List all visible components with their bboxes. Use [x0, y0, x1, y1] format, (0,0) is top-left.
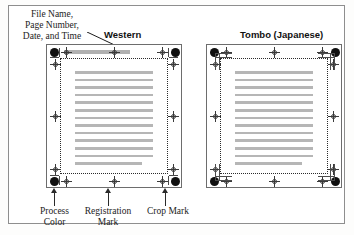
- text-line: [235, 162, 302, 165]
- text-line: [235, 86, 313, 89]
- callout-file-info-line-2: Page Number,: [6, 20, 98, 31]
- leader-arrowhead-crop-mark: [162, 188, 168, 193]
- panel-tombo: [206, 44, 342, 188]
- text-line: [235, 132, 313, 135]
- text-line: [75, 124, 153, 127]
- text-line: [235, 147, 313, 150]
- crop-mark: [168, 175, 182, 189]
- crop-mark-tombo: [315, 53, 335, 73]
- process-color-dot: [50, 177, 59, 186]
- panel-title-tombo: Tombo (Japanese): [240, 29, 323, 40]
- leader-process-color: [54, 192, 55, 206]
- text-line: [235, 94, 313, 97]
- callout-file-info: File Name, Page Number, Date, and Time: [6, 9, 98, 42]
- leader-crop-mark: [165, 192, 166, 206]
- label-crop-mark: Crop Mark: [140, 206, 196, 217]
- crop-mark-tombo: [215, 53, 235, 73]
- label-registration-mark: Registration Mark: [77, 206, 139, 228]
- callout-file-info-line-1: File Name,: [6, 9, 98, 20]
- registration-mark: [269, 47, 280, 58]
- registration-mark: [269, 176, 280, 187]
- page-content-lines-tombo: [235, 71, 313, 165]
- text-line: [75, 79, 153, 82]
- label-registration-mark-line-1: Registration: [77, 206, 139, 217]
- text-line: [235, 101, 313, 104]
- registration-mark: [210, 111, 221, 122]
- registration-mark: [168, 164, 179, 175]
- registration-mark: [168, 111, 179, 122]
- text-line: [235, 124, 313, 127]
- crop-mark: [59, 175, 73, 189]
- crop-mark-tombo: [215, 161, 235, 181]
- crop-mark: [59, 57, 73, 71]
- registration-mark: [157, 47, 168, 58]
- text-line: [235, 139, 313, 142]
- registration-mark: [50, 164, 61, 175]
- text-line: [75, 139, 153, 142]
- process-color-dot: [171, 48, 180, 57]
- text-line: [235, 71, 313, 74]
- text-line: [235, 155, 313, 158]
- text-line: [75, 147, 153, 150]
- text-line: [75, 109, 153, 112]
- process-color-dot: [50, 48, 59, 57]
- text-line: [75, 101, 153, 104]
- text-line: [235, 117, 313, 120]
- crop-mark: [168, 57, 182, 71]
- callout-file-info-line-3: Date, and Time: [6, 31, 98, 42]
- filename-slug-bar: [64, 50, 130, 54]
- page-content-lines-western: [75, 71, 153, 165]
- text-line: [75, 162, 142, 165]
- label-crop-mark-line-1: Crop Mark: [140, 206, 196, 217]
- label-registration-mark-line-2: Mark: [77, 217, 139, 228]
- registration-mark: [157, 176, 168, 187]
- printer-marks-figure: File Name, Page Number, Date, and Time W…: [0, 0, 354, 235]
- crop-mark-tombo: [315, 161, 335, 181]
- panel-title-western: Western: [104, 29, 141, 40]
- leader-arrowhead-registration-mark: [105, 188, 111, 193]
- label-process-color: Process Color: [26, 206, 83, 228]
- registration-mark: [109, 176, 120, 187]
- registration-mark: [328, 111, 339, 122]
- text-line: [235, 79, 313, 82]
- panel-western: [46, 44, 182, 188]
- leader-registration-mark: [108, 192, 109, 206]
- registration-mark: [109, 47, 120, 58]
- leader-arrowhead-process-color: [51, 188, 57, 193]
- text-line: [235, 109, 313, 112]
- label-process-color-line-2: Color: [26, 217, 83, 228]
- text-line: [75, 71, 153, 74]
- label-process-color-line-1: Process: [26, 206, 83, 217]
- text-line: [75, 86, 153, 89]
- text-line: [75, 117, 153, 120]
- text-line: [75, 94, 153, 97]
- registration-mark: [50, 111, 61, 122]
- text-line: [75, 132, 153, 135]
- text-line: [75, 155, 153, 158]
